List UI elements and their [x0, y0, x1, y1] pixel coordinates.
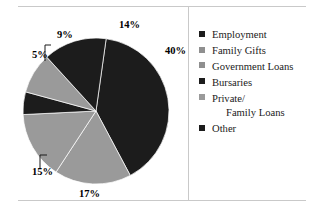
bottom-rule: [18, 200, 306, 201]
legend-swatch-icon: [199, 31, 205, 37]
vertical-divider: [188, 6, 189, 201]
pie-percent-label: 17%: [79, 189, 100, 200]
legend-label-line1: Private/: [212, 93, 245, 104]
legend-item[interactable]: Other: [199, 121, 311, 135]
legend-label-line1: Bursaries: [212, 77, 252, 88]
legend-swatch-icon: [199, 94, 205, 100]
legend-item-label: Private/Family Loans: [212, 91, 285, 120]
legend-item-label: Other: [212, 121, 236, 135]
legend-swatch-icon: [199, 78, 205, 84]
legend-item[interactable]: Private/Family Loans: [199, 91, 311, 120]
legend-label-line1: Government Loans: [212, 61, 294, 72]
legend-swatch-icon: [199, 125, 205, 131]
legend-item[interactable]: Government Loans: [199, 59, 311, 73]
legend-swatch-icon: [199, 47, 205, 53]
top-rule: [18, 6, 306, 7]
pie-chart: 14%40%17%15%5%9%: [18, 8, 188, 200]
figure-container: 14%40%17%15%5%9% EmploymentFamily GiftsG…: [0, 0, 319, 212]
legend-item-label: Family Gifts: [212, 43, 266, 57]
legend-label-line1: Family Gifts: [212, 45, 266, 56]
legend-item-label: Bursaries: [212, 75, 252, 89]
legend-item-label: Employment: [212, 27, 267, 41]
legend-label-line1: Other: [212, 123, 236, 134]
pie-percent-label: 14%: [119, 20, 140, 31]
legend-swatch-icon: [199, 62, 205, 68]
pie-percent-label: 5%: [32, 50, 48, 61]
legend-item-label: Government Loans: [212, 59, 294, 73]
legend-label-line2: Family Loans: [212, 107, 285, 118]
legend-item[interactable]: Bursaries: [199, 75, 311, 89]
legend-item[interactable]: Employment: [199, 27, 311, 41]
pie-percent-label: 9%: [57, 30, 73, 41]
pie-percent-label: 40%: [165, 46, 186, 57]
legend-label-line1: Employment: [212, 29, 267, 40]
pie-percent-label: 15%: [32, 167, 53, 178]
legend: EmploymentFamily GiftsGovernment LoansBu…: [199, 27, 311, 137]
legend-item[interactable]: Family Gifts: [199, 43, 311, 57]
